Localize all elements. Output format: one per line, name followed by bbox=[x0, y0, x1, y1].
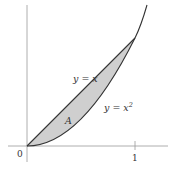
origin-label: 0 bbox=[17, 149, 23, 159]
area-between-curves-diagram: y = x y = x2 A 0 1 bbox=[0, 0, 175, 175]
label-y-equals-x-squared-main: y = x bbox=[103, 102, 129, 113]
label-exponent: 2 bbox=[128, 101, 133, 109]
region-label: A bbox=[64, 115, 72, 126]
x-tick-label-1: 1 bbox=[132, 153, 138, 163]
curve-y-equals-x bbox=[27, 38, 135, 146]
label-y-equals-x-squared: y = x2 bbox=[103, 101, 133, 113]
label-y-equals-x: y = x bbox=[72, 73, 98, 84]
